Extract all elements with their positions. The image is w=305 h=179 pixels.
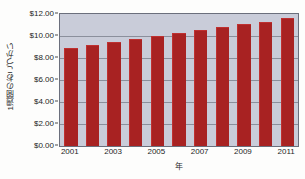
- y-tick-label: $4.00: [34, 97, 54, 106]
- y-tick-label: $12.00: [30, 9, 54, 18]
- y-tick-mark: [55, 35, 58, 36]
- bar-chart-figure: 1週間のおこづかい $0.00$2.00$4.00$6.00$8.00$10.0…: [0, 0, 305, 179]
- bar-2011: [281, 18, 294, 146]
- x-tick-label: 2009: [234, 147, 252, 156]
- bar-2007: [194, 30, 207, 146]
- x-tick-label: 2007: [191, 147, 209, 156]
- y-axis-title-text: 1週間のおこづかい: [6, 42, 15, 110]
- plot-area: [59, 13, 299, 147]
- y-tick-mark: [55, 57, 58, 58]
- bar-2010: [259, 22, 272, 146]
- bar-slot: [276, 14, 298, 146]
- y-tick-mark: [55, 13, 58, 14]
- y-axis-tick-labels: $0.00$2.00$4.00$6.00$8.00$10.00$12.00: [16, 0, 58, 179]
- bar-slot: [168, 14, 190, 146]
- x-axis-title: 年: [59, 160, 299, 171]
- bar-2001: [64, 48, 77, 146]
- bar-slot: [103, 14, 125, 146]
- bar-2008: [216, 27, 229, 146]
- y-tick-label: $6.00: [34, 75, 54, 84]
- bar-slot: [233, 14, 255, 146]
- y-tick-mark: [55, 145, 58, 146]
- bar-series: [60, 14, 298, 146]
- bar-slot: [82, 14, 104, 146]
- x-axis-tick-labels: 200120032005200720092011: [59, 147, 299, 161]
- y-tick-mark: [55, 123, 58, 124]
- bar-slot: [125, 14, 147, 146]
- bar-2004: [129, 39, 142, 146]
- x-tick-label: 2005: [147, 147, 165, 156]
- bar-slot: [60, 14, 82, 146]
- bar-slot: [255, 14, 277, 146]
- bar-2003: [107, 42, 120, 146]
- y-tick-label: $10.00: [30, 31, 54, 40]
- y-tick-label: $0.00: [34, 141, 54, 150]
- bar-slot: [211, 14, 233, 146]
- bar-2002: [86, 45, 99, 146]
- y-tick-mark: [55, 79, 58, 80]
- x-tick-label: 2003: [104, 147, 122, 156]
- y-tick-mark: [55, 101, 58, 102]
- x-tick-label: 2011: [278, 147, 295, 156]
- bar-2009: [237, 24, 250, 146]
- x-tick-label: 2001: [61, 147, 79, 156]
- y-tick-label: $2.00: [34, 119, 54, 128]
- y-tick-label: $8.00: [34, 53, 54, 62]
- bar-slot: [190, 14, 212, 146]
- bar-2006: [172, 33, 185, 146]
- bar-slot: [147, 14, 169, 146]
- bar-2005: [151, 36, 164, 146]
